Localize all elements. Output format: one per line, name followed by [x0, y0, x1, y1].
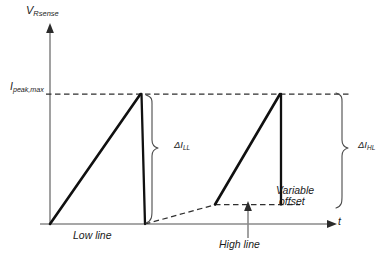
delta-i-ll-label: ΔILL [174, 140, 190, 150]
peak-level-label: Ipeak,max [10, 81, 44, 92]
variable-offset-label: Variable offset [276, 185, 314, 207]
brace-delta-i-hl [336, 93, 348, 208]
delta-i-hl-label: ΔIHL [358, 140, 375, 150]
low-line-label: Low line [73, 230, 112, 241]
high-line-label: High line [219, 239, 260, 250]
low-line-ramp-path [50, 94, 141, 224]
waveform-diagram: VRsense Ipeak,max ΔILL ΔIHL Variable off… [0, 0, 390, 265]
delta-i-hl-label-main: ΔI [358, 139, 367, 150]
delta-i-ll-label-main: ΔI [174, 139, 183, 150]
delta-i-ll-label-subscript: LL [183, 144, 190, 151]
delta-i-hl-label-subscript: HL [367, 144, 375, 151]
waveform-high-line [215, 94, 281, 205]
variable-offset-label-line2: offset [276, 196, 314, 207]
x-axis-arrowhead [327, 220, 337, 228]
x-axis-label: t [338, 216, 341, 227]
variable-offset-dashed-ramp [145, 205, 216, 225]
y-axis-arrowhead [46, 23, 54, 33]
waveform-low-line [50, 94, 145, 224]
peak-level-label-subscript: peak,max [13, 86, 44, 94]
y-axis-label-subscript: Rsense [33, 9, 58, 18]
diagram-canvas [0, 0, 390, 265]
high-line-pointer [244, 201, 252, 238]
brace-delta-i-ll [146, 95, 158, 223]
low-line-reset-path [142, 94, 146, 224]
high-line-pointer-arrowhead [244, 201, 252, 211]
y-axis-label: VRsense [26, 5, 59, 17]
high-line-ramp-path [215, 94, 280, 205]
